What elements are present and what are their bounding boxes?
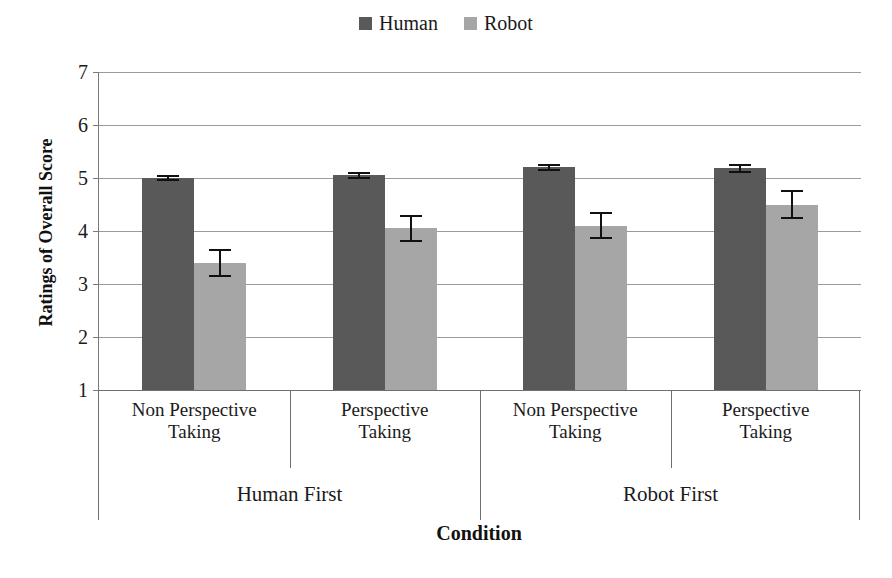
error-bar-cap-bottom [400, 240, 422, 242]
bar-robot-2[interactable] [575, 226, 627, 390]
category-divider [290, 390, 291, 468]
legend-entry-human[interactable]: Human [359, 13, 438, 33]
legend-swatch-robot-icon [464, 17, 477, 30]
group-label-0: Human First [99, 468, 480, 520]
category-label-0: Non PerspectiveTaking [99, 390, 290, 468]
y-tick-label: 2 [64, 327, 88, 347]
bar-human-2[interactable] [523, 167, 575, 390]
y-axis-tick [93, 72, 99, 73]
plot-area [98, 72, 860, 390]
error-bar-robot-0 [209, 249, 231, 277]
y-tick-label: 3 [64, 274, 88, 294]
error-bar-cap-top [781, 190, 803, 192]
error-bar-cap-bottom [348, 177, 370, 179]
y-axis-tick-labels: 7654321 [44, 0, 88, 578]
category-label-line: Perspective [722, 399, 810, 421]
error-bar-stem [219, 249, 221, 277]
legend-entry-robot[interactable]: Robot [464, 13, 533, 33]
error-bar-cap-top [209, 249, 231, 251]
error-bar-cap-top [729, 164, 751, 166]
legend-label-human: Human [379, 13, 438, 33]
category-divider [671, 390, 672, 468]
error-bar-human-2 [538, 164, 560, 171]
legend-label-robot: Robot [484, 13, 533, 33]
error-bar-cap-top [157, 175, 179, 177]
y-axis-tick [93, 178, 99, 179]
error-bar-cap-bottom [781, 217, 803, 219]
error-bar-robot-3 [781, 190, 803, 219]
legend-swatch-human-icon [359, 17, 372, 30]
error-bar-human-1 [348, 172, 370, 179]
chart-legend: HumanRobot [0, 8, 892, 38]
error-bar-cap-top [590, 212, 612, 214]
error-bar-cap-bottom [729, 171, 751, 173]
y-axis-tick [93, 337, 99, 338]
error-bar-stem [791, 190, 793, 219]
category-label-line: Taking [168, 421, 221, 443]
x-axis-title: Condition [98, 522, 860, 545]
error-bar-cap-bottom [538, 169, 560, 171]
bar-robot-3[interactable] [766, 205, 818, 391]
bar-chart-figure: HumanRobot Ratings of Overall Score 7654… [0, 0, 892, 578]
error-bar-stem [600, 212, 602, 239]
error-bar-cap-top [348, 172, 370, 174]
category-label-line: Taking [740, 421, 793, 443]
error-bar-cap-bottom [209, 275, 231, 277]
group-label-1: Robot First [480, 468, 861, 520]
group-label-band: Human FirstRobot First [98, 468, 860, 520]
bar-human-1[interactable] [333, 175, 385, 390]
y-tick-label: 4 [64, 221, 88, 241]
error-bar-human-0 [157, 175, 179, 181]
error-bar-cap-bottom [157, 179, 179, 181]
category-label-line: Non Perspective [132, 399, 257, 421]
category-label-line: Perspective [341, 399, 429, 421]
gridline [99, 72, 861, 73]
error-bar-cap-bottom [590, 237, 612, 239]
error-bar-robot-2 [590, 212, 612, 239]
error-bar-human-3 [729, 164, 751, 172]
bar-robot-1[interactable] [385, 228, 437, 390]
category-label-line: Non Perspective [513, 399, 638, 421]
category-divider [480, 390, 481, 468]
category-label-1: PerspectiveTaking [290, 390, 481, 468]
group-divider [480, 468, 481, 520]
error-bar-cap-top [538, 164, 560, 166]
error-bar-stem [410, 215, 412, 242]
category-label-line: Taking [549, 421, 602, 443]
y-tick-label: 6 [64, 115, 88, 135]
y-axis-tick [93, 284, 99, 285]
y-axis-tick [93, 125, 99, 126]
y-axis-tick [93, 231, 99, 232]
category-label-line: Taking [359, 421, 412, 443]
error-bar-robot-1 [400, 215, 422, 242]
gridline [99, 125, 861, 126]
y-tick-label: 1 [64, 380, 88, 400]
y-tick-label: 5 [64, 168, 88, 188]
bar-robot-0[interactable] [194, 263, 246, 390]
bar-human-0[interactable] [142, 178, 194, 390]
category-label-2: Non PerspectiveTaking [480, 390, 671, 468]
bar-human-3[interactable] [714, 168, 766, 390]
category-label-3: PerspectiveTaking [671, 390, 862, 468]
y-tick-label: 7 [64, 62, 88, 82]
category-label-band: Non PerspectiveTakingPerspectiveTakingNo… [98, 390, 860, 468]
error-bar-cap-top [400, 215, 422, 217]
